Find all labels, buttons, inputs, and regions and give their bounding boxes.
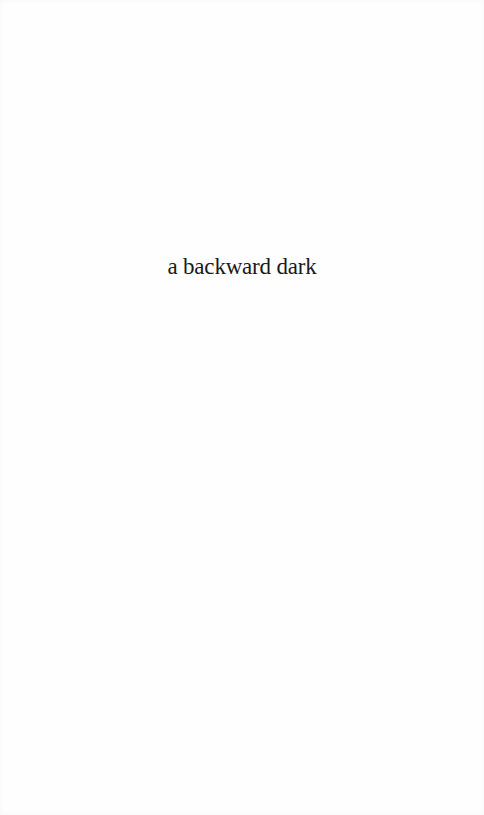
book-page: a backward dark bbox=[0, 0, 484, 815]
page-title: a backward dark bbox=[0, 253, 484, 281]
